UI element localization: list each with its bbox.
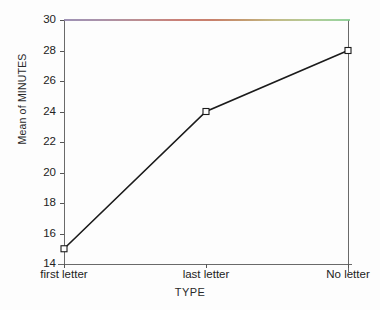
data-point-marker bbox=[345, 48, 351, 54]
data-point-marker bbox=[203, 109, 209, 115]
x-tick-label: last letter bbox=[146, 268, 266, 280]
x-axis-title: TYPE bbox=[0, 286, 380, 298]
data-point-markers bbox=[61, 48, 351, 252]
chart-container: Mean of MINUTES 141618202224262830 first… bbox=[0, 0, 380, 310]
data-point-marker bbox=[61, 246, 67, 252]
plot-area bbox=[0, 0, 380, 310]
data-line-series-1 bbox=[64, 51, 348, 249]
x-tick-label: first letter bbox=[4, 268, 124, 280]
x-tick-label: No letter bbox=[288, 268, 380, 280]
